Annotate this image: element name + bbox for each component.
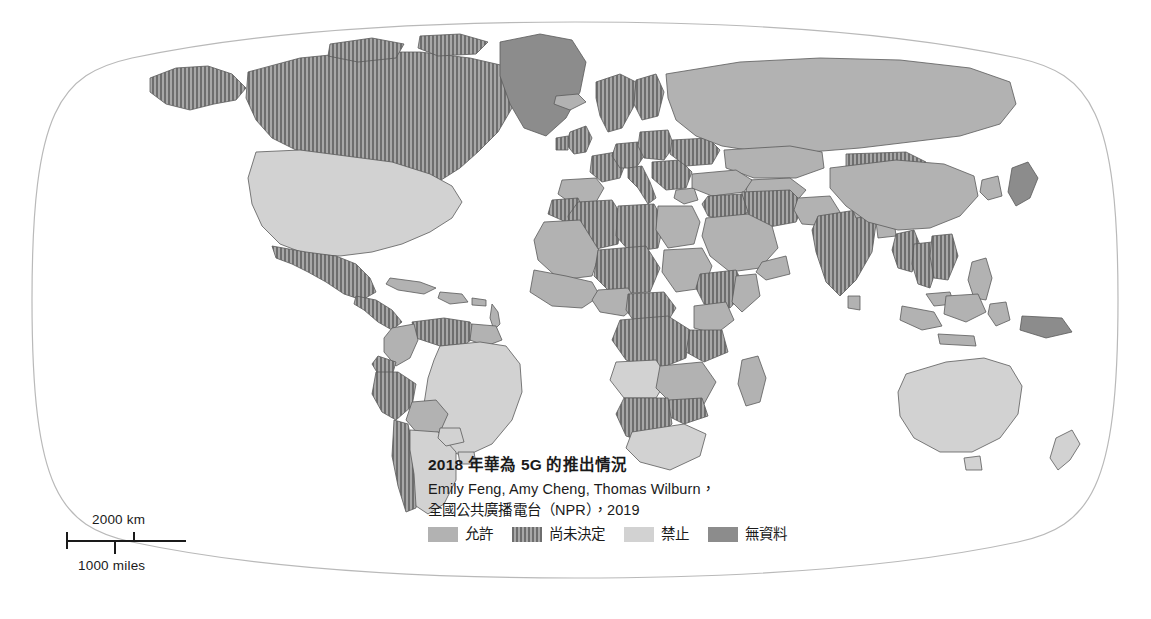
legend-swatch-undecided xyxy=(512,527,542,542)
credit-line-authors: Emily Feng, Amy Cheng, Thomas Wilburn， xyxy=(428,479,848,500)
legend-swatch-ban xyxy=(624,527,654,542)
legend-swatch-allow xyxy=(428,527,458,542)
caption-block: 2018 年華為 5G 的推出情況 Emily Feng, Amy Cheng,… xyxy=(428,455,848,542)
legend-item-nodata: 無資料 xyxy=(708,527,787,542)
scale-bar: 2000 km 1000 miles xyxy=(56,512,216,582)
legend-item-ban: 禁止 xyxy=(624,527,689,542)
region-tasmania xyxy=(964,456,982,470)
region-sri-lanka xyxy=(848,296,860,310)
credit-line-source: 全國公共廣播電台（NPR），2019 xyxy=(428,500,848,521)
map-legend: 允許 尚未決定 禁止 無資料 xyxy=(428,527,848,542)
legend-item-undecided: 尚未決定 xyxy=(512,527,605,542)
legend-label-ban: 禁止 xyxy=(661,527,689,542)
legend-swatch-nodata xyxy=(708,527,738,542)
world-map-figure: 2000 km 1000 miles 2018 年華為 5G 的推出情況 Emi… xyxy=(0,0,1151,619)
scale-miles-tick-mid xyxy=(114,540,116,554)
scale-km-label: 2000 km xyxy=(92,512,145,527)
legend-item-allow: 允許 xyxy=(428,527,493,542)
region-java xyxy=(938,334,976,346)
legend-label-undecided: 尚未決定 xyxy=(549,527,605,542)
legend-label-nodata: 無資料 xyxy=(745,527,787,542)
scale-miles-label: 1000 miles xyxy=(78,558,145,573)
scale-km-tick-right xyxy=(133,532,135,541)
scale-km-rule xyxy=(66,540,186,542)
legend-label-allow: 允許 xyxy=(465,527,493,542)
scale-km-tick-left xyxy=(66,532,68,549)
map-title: 2018 年華為 5G 的推出情況 xyxy=(428,455,848,476)
region-ireland xyxy=(556,136,568,150)
